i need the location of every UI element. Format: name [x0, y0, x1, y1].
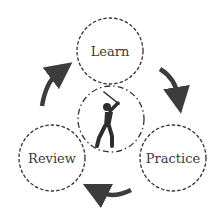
node-review-label: Review	[28, 151, 76, 166]
node-learn-label: Learn	[91, 44, 130, 59]
node-practice: Practice	[140, 125, 206, 191]
arrow-learn-to-practice-icon	[160, 69, 178, 96]
golfer-icon	[97, 92, 119, 146]
center-node	[78, 86, 144, 152]
arrow-review-to-learn-icon	[42, 73, 58, 106]
arrow-practice-to-review-icon	[99, 190, 131, 195]
node-review: Review	[19, 125, 85, 191]
node-practice-label: Practice	[146, 151, 201, 166]
cycle-diagram: Learn Review Practice	[0, 0, 219, 215]
node-learn: Learn	[77, 18, 143, 84]
